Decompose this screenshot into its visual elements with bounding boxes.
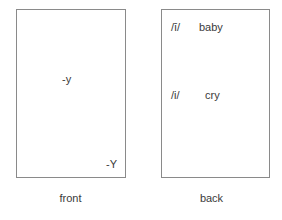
back-card-entry-1-phoneme: /ī/ bbox=[171, 21, 199, 34]
back-card-entry-2-phoneme: /i/ bbox=[171, 89, 205, 102]
back-card-entry-1: /ī/ baby bbox=[171, 21, 223, 34]
flashcard-figure: -y -Y front /ī/ baby /i/ cry back bbox=[0, 0, 282, 220]
back-card-caption: back bbox=[141, 192, 282, 205]
back-card[interactable]: /ī/ baby /i/ cry bbox=[161, 9, 270, 178]
back-card-group: /ī/ baby /i/ cry back bbox=[141, 0, 282, 220]
front-card-corner-label: -Y bbox=[106, 158, 117, 170]
front-card-group: -y -Y front bbox=[0, 0, 141, 220]
front-card-caption: front bbox=[0, 192, 141, 205]
back-card-entry-1-gloss: baby bbox=[199, 21, 223, 34]
back-card-entry-2: /i/ cry bbox=[171, 89, 220, 102]
back-card-entry-2-gloss: cry bbox=[205, 89, 220, 102]
front-card[interactable]: -y -Y bbox=[16, 9, 126, 178]
front-card-primary-label: -y bbox=[62, 73, 71, 85]
